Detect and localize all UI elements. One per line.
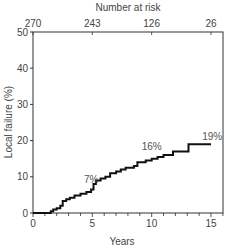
percent-annotation: 19%	[202, 131, 222, 142]
y-axis-title: Local failure (%)	[3, 86, 14, 158]
percent-annotation: 16%	[142, 141, 162, 152]
y-tick-label: 10	[17, 171, 29, 182]
number-at-risk-label: 26	[205, 18, 217, 29]
x-tick-label: 10	[146, 218, 158, 229]
x-axis-title: Years	[109, 236, 134, 247]
y-axis-ticks: 01020304050	[17, 27, 33, 219]
y-tick-label: 20	[17, 135, 29, 146]
y-tick-label: 50	[17, 27, 29, 38]
cumulative-incidence-chart: Number at risk 27024312626 01020304050 0…	[0, 0, 228, 251]
y-tick-label: 0	[22, 208, 28, 219]
y-tick-label: 40	[17, 63, 29, 74]
percent-annotation: 7%	[84, 174, 99, 185]
x-axis-ticks: 051015	[30, 213, 223, 229]
y-tick-label: 30	[17, 99, 29, 110]
number-at-risk-label: 126	[143, 18, 160, 29]
top-axis-title: Number at risk	[95, 2, 161, 13]
x-tick-label: 0	[30, 218, 36, 229]
x-tick-label: 5	[90, 218, 96, 229]
number-at-risk-label: 243	[84, 18, 101, 29]
x-tick-label: 15	[205, 218, 217, 229]
plot-frame	[33, 32, 223, 213]
local-failure-curve	[33, 144, 211, 213]
